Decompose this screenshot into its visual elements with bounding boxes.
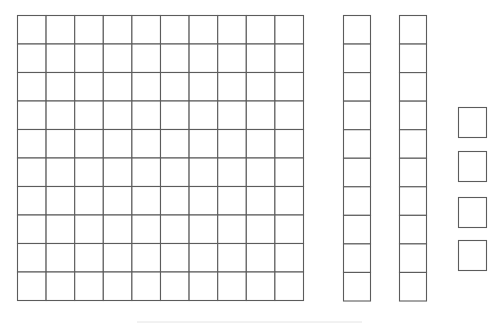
flat-cell [132, 73, 161, 102]
flat-cell [132, 244, 161, 273]
flat-cell [18, 130, 47, 159]
unit-cube [459, 198, 487, 228]
base-ten-diagram [0, 0, 503, 324]
flat-cell [161, 215, 190, 244]
flat-cell [161, 44, 190, 73]
flat-cell [275, 73, 304, 102]
unit-cubes [459, 108, 487, 271]
flat-cell [246, 187, 275, 216]
rod-cell [344, 16, 371, 45]
flat-cell [218, 187, 247, 216]
flat-cell [75, 215, 104, 244]
flat-cell [46, 73, 75, 102]
flat-cell [103, 244, 132, 273]
flat-cell [103, 215, 132, 244]
rod-cell [400, 187, 427, 216]
flat-cell [189, 272, 218, 301]
flat-cell [275, 158, 304, 187]
flat-cell [18, 158, 47, 187]
flat-cell [275, 101, 304, 130]
flat-cell [161, 16, 190, 45]
rod-cell [400, 130, 427, 159]
flat-cell [218, 73, 247, 102]
rod-cell [400, 215, 427, 244]
flat-cell [103, 44, 132, 73]
flat-cell [189, 101, 218, 130]
rod-cell [400, 101, 427, 130]
flat-cell [132, 16, 161, 45]
rod-cell [400, 44, 427, 73]
flat-cell [161, 101, 190, 130]
unit-cube [459, 241, 487, 271]
flat-cell [103, 16, 132, 45]
flat-cell [218, 130, 247, 159]
flat-cell [189, 244, 218, 273]
flat-cell [218, 272, 247, 301]
flat-cell [132, 158, 161, 187]
flat-cell [18, 73, 47, 102]
flat-cell [246, 244, 275, 273]
flat-cell [246, 44, 275, 73]
flat-cell [18, 187, 47, 216]
flat-cell [18, 44, 47, 73]
flat-cell [75, 44, 104, 73]
flat-cell [161, 272, 190, 301]
rod-cell [400, 73, 427, 102]
flat-cell [246, 101, 275, 130]
rod-cell [400, 16, 427, 45]
rod-cell [344, 73, 371, 102]
flat-cell [46, 158, 75, 187]
flat-cell [132, 187, 161, 216]
hundred-flat [18, 16, 304, 301]
flat-cell [46, 187, 75, 216]
flat-cell [246, 158, 275, 187]
flat-cell [46, 215, 75, 244]
flat-cell [246, 73, 275, 102]
rod-cell [400, 158, 427, 187]
flat-cell [75, 73, 104, 102]
flat-cell [275, 244, 304, 273]
flat-cell [132, 215, 161, 244]
rod-cell [400, 244, 427, 273]
flat-cell [246, 130, 275, 159]
flat-cell [189, 187, 218, 216]
flat-cell [75, 130, 104, 159]
flat-cell [46, 130, 75, 159]
flat-cell [75, 244, 104, 273]
rod-cell [344, 187, 371, 216]
flat-cell [75, 158, 104, 187]
flat-cell [275, 44, 304, 73]
flat-cell [46, 244, 75, 273]
rod-cell [344, 101, 371, 130]
flat-cell [75, 272, 104, 301]
rod-cell [344, 158, 371, 187]
flat-cell [103, 130, 132, 159]
flat-cell [189, 130, 218, 159]
flat-cell [189, 16, 218, 45]
flat-cell [18, 215, 47, 244]
flat-cell [218, 101, 247, 130]
flat-cell [275, 130, 304, 159]
flat-cell [275, 215, 304, 244]
flat-cell [103, 101, 132, 130]
flat-cell [132, 44, 161, 73]
flat-cell [161, 130, 190, 159]
flat-cell [246, 215, 275, 244]
flat-cell [75, 187, 104, 216]
flat-cell [103, 272, 132, 301]
ten-rod [400, 16, 427, 302]
flat-cell [246, 16, 275, 45]
flat-cell [46, 272, 75, 301]
flat-cell [103, 187, 132, 216]
flat-cell [18, 272, 47, 301]
flat-cell [218, 16, 247, 45]
rod-cell [344, 215, 371, 244]
flat-cell [218, 244, 247, 273]
rod-cell [344, 244, 371, 273]
flat-cell [218, 44, 247, 73]
rod-cell [344, 130, 371, 159]
flat-cell [75, 16, 104, 45]
flat-cell [18, 16, 47, 45]
flat-cell [161, 158, 190, 187]
flat-cell [103, 73, 132, 102]
